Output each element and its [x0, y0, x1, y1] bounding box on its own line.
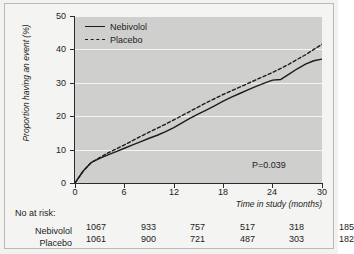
- risk-cell: 303: [274, 234, 304, 244]
- y-tick-mark-40: [70, 49, 74, 50]
- y-axis-title: Proportion having an event (%): [21, 23, 31, 143]
- y-tick-mark-20: [70, 116, 74, 117]
- y-axis-line: [74, 16, 75, 184]
- risk-row-nebivolol: Nebivolol 1067 933 757 517 318 185: [15, 222, 325, 234]
- x-tick-label-24: 24: [259, 188, 285, 197]
- y-tick-mark-10: [70, 150, 74, 151]
- plot-area: Nebivolol Placebo P=0.039: [75, 16, 322, 183]
- risk-row-label-nebivolol: Nebivolol: [15, 226, 72, 236]
- risk-cell: 318: [274, 222, 304, 232]
- risk-row-label-placebo: Placebo: [15, 238, 72, 248]
- y-tick-mark-30: [70, 83, 74, 84]
- risk-cell: 1067: [76, 222, 106, 232]
- y-tick-label-30: 30: [56, 79, 66, 88]
- x-tick-label-18: 18: [210, 188, 236, 197]
- p-value-annotation: P=0.039: [252, 160, 286, 170]
- risk-table: Nebivolol 1067 933 757 517 318 185 Place…: [15, 222, 325, 246]
- y-tick-label-20: 20: [56, 112, 66, 121]
- legend-item-placebo: Placebo: [85, 33, 195, 46]
- chart-legend: Nebivolol Placebo: [85, 20, 195, 46]
- y-tick-label-0: 0: [61, 179, 66, 188]
- legend-label-placebo: Placebo: [110, 35, 143, 45]
- x-tick-label-30: 30: [309, 188, 335, 197]
- x-tick-label-6: 6: [111, 188, 137, 197]
- y-tick-label-10: 10: [56, 146, 66, 155]
- risk-cell: 721: [175, 234, 205, 244]
- y-tick-label-40: 40: [56, 45, 66, 54]
- legend-item-nebivolol: Nebivolol: [85, 20, 195, 33]
- x-axis-line: [74, 183, 323, 184]
- risk-cell: 487: [225, 234, 255, 244]
- risk-cell: 757: [175, 222, 205, 232]
- x-tick-label-12: 12: [161, 188, 187, 197]
- risk-cells-nebivolol: 1067 933 757 517 318 185: [72, 222, 325, 234]
- risk-cell: 517: [225, 222, 255, 232]
- legend-label-nebivolol: Nebivolol: [110, 22, 147, 32]
- y-tick-mark-50: [70, 16, 74, 17]
- risk-cells-placebo: 1061 900 721 487 303 182: [72, 234, 325, 246]
- x-tick-label-0: 0: [62, 188, 88, 197]
- risk-cell: 1061: [76, 234, 106, 244]
- risk-cell: 900: [126, 234, 156, 244]
- x-axis-title: Time in study (months): [175, 199, 322, 209]
- risk-cell: 185: [324, 222, 354, 232]
- y-tick-mark-0: [70, 183, 74, 184]
- legend-line-dashed-icon: [85, 35, 105, 44]
- risk-table-title: No at risk:: [15, 208, 56, 218]
- legend-line-solid-icon: [85, 22, 105, 31]
- risk-cell: 933: [126, 222, 156, 232]
- y-tick-label-50: 50: [56, 12, 66, 21]
- risk-cell: 182: [324, 234, 354, 244]
